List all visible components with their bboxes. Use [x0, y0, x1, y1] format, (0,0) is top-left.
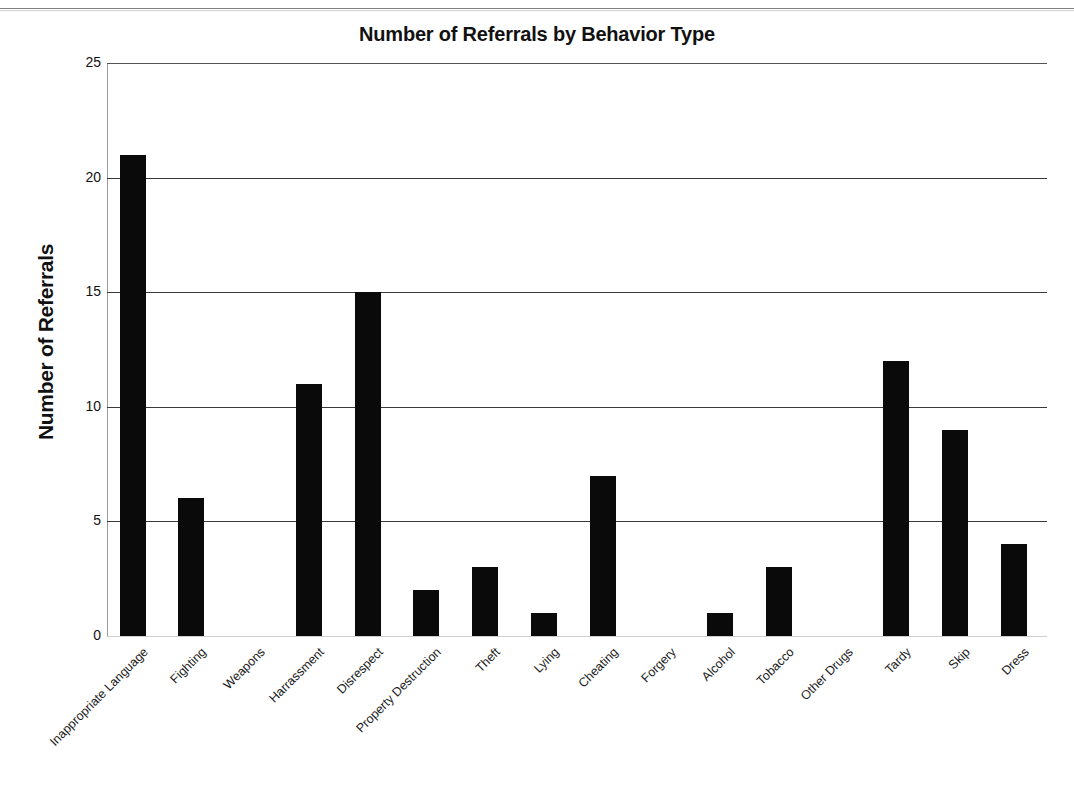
x-tick-label-text: Forgery: [639, 645, 679, 685]
x-tick-label-text: Skip: [946, 645, 973, 672]
x-tick-label: Forgery: [639, 645, 679, 685]
y-axis-tick-labels: 0510152025: [55, 63, 101, 636]
x-tick-label-text: Disrespect: [334, 645, 386, 697]
x-tick-label: Skip: [946, 645, 973, 672]
y-tick-label: 5: [61, 513, 101, 527]
x-axis-tick-labels: Inappropriate LanguageFightingWeaponsHar…: [107, 637, 1047, 787]
x-tick-label-text: Harrassment: [266, 645, 326, 705]
x-tick-label-text: Theft: [473, 645, 503, 675]
x-tick-label: Lying: [531, 645, 562, 676]
bar: [296, 384, 322, 636]
bar: [120, 155, 146, 636]
x-tick-label-text: Dress: [999, 645, 1032, 678]
plot-area: [107, 63, 1047, 636]
x-tick-label: Disrespect: [334, 645, 386, 697]
bars-layer: [107, 63, 1047, 636]
x-tick-label: Theft: [473, 645, 503, 675]
x-tick-label-text: Other Drugs: [797, 645, 855, 703]
x-tick-label-text: Tobacco: [754, 645, 797, 688]
x-tick-label: Inappropriate Language: [47, 645, 151, 749]
bar: [590, 476, 616, 636]
bar: [942, 430, 968, 636]
bar: [707, 613, 733, 636]
x-tick-label: Tobacco: [754, 645, 797, 688]
x-tick-label-text: Fighting: [168, 645, 209, 686]
x-tick-label: Cheating: [575, 645, 620, 690]
x-tick-label-text: Inappropriate Language: [47, 645, 151, 749]
x-tick-label: Harrassment: [266, 645, 326, 705]
bar: [883, 361, 909, 636]
x-tick-label-text: Cheating: [575, 645, 620, 690]
bar: [413, 590, 439, 636]
x-tick-label: Alcohol: [699, 645, 738, 684]
y-tick-label: 10: [61, 399, 101, 413]
x-tick-label: Weapons: [221, 645, 268, 692]
y-tick-label: 25: [61, 55, 101, 69]
chart-title: Number of Referrals by Behavior Type: [0, 23, 1074, 46]
y-tick-label: 15: [61, 284, 101, 298]
bar: [178, 498, 204, 636]
page-top-rule-secondary: [0, 10, 1074, 11]
x-tick-label-text: Lying: [531, 645, 562, 676]
bar: [355, 292, 381, 636]
bar: [1001, 544, 1027, 636]
x-tick-label: Other Drugs: [797, 645, 855, 703]
x-tick-label-text: Weapons: [221, 645, 268, 692]
y-tick-label: 20: [61, 170, 101, 184]
x-tick-label: Tardy: [883, 645, 915, 677]
page-top-rule: [0, 8, 1074, 9]
bar: [531, 613, 557, 636]
y-tick-label: 0: [61, 628, 101, 642]
x-tick-label-text: Tardy: [883, 645, 915, 677]
bar: [766, 567, 792, 636]
bar: [472, 567, 498, 636]
x-tick-label: Dress: [999, 645, 1032, 678]
x-tick-label-text: Alcohol: [699, 645, 738, 684]
x-tick-label: Fighting: [168, 645, 209, 686]
